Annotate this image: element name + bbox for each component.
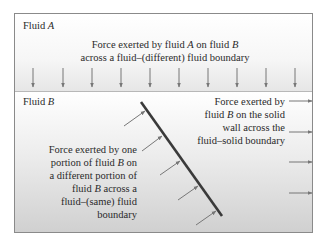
arrows-and-wall-layer [0,0,330,244]
diagonal-arrow-icon [160,161,180,175]
fluid-forces-diagram: Fluid A Force exerted by fluid A on flui… [0,0,330,244]
down-arrows [33,68,295,87]
diagonal-arrow-icon [142,136,162,151]
solid-wall [141,102,222,216]
diagonal-arrow-icon [178,186,198,200]
wall-arrows [124,111,216,225]
diagonal-arrow-icon [124,111,145,126]
right-arrows [289,101,312,193]
diagonal-arrow-icon [196,211,216,225]
